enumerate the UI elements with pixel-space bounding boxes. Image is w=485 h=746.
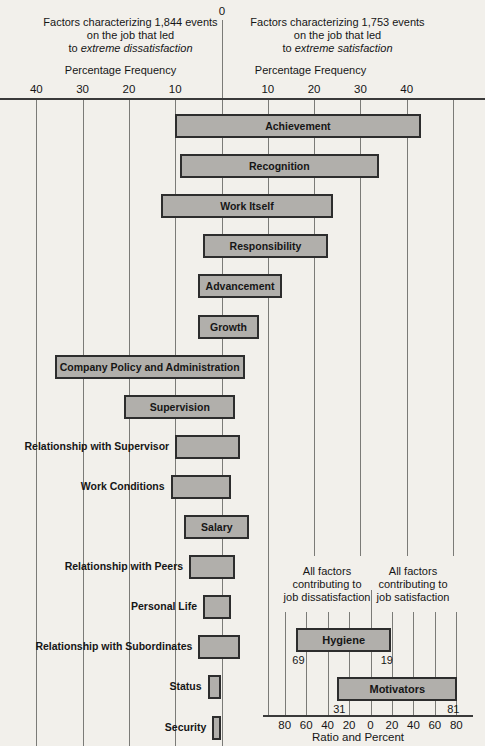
satisfaction-title-line3: to extreme satisfaction bbox=[235, 42, 440, 55]
inset-tick-label-60: 60 bbox=[428, 719, 441, 731]
bar-motivators: Motivators bbox=[337, 677, 457, 701]
inset-tick-label--60: 60 bbox=[300, 719, 313, 731]
gridline-50 bbox=[453, 98, 454, 556]
percentage-frequency-label-right: Percentage Frequency bbox=[228, 64, 393, 77]
axis-tick-label-30: 30 bbox=[354, 83, 367, 95]
inset-tick-label--40: 40 bbox=[321, 719, 334, 731]
satisfaction-title-line1: Factors characterizing 1,753 events bbox=[235, 16, 440, 29]
dissatisfaction-title-line1: Factors characterizing 1,844 events bbox=[28, 16, 233, 29]
inset-tick-label-0: 0 bbox=[367, 719, 373, 731]
inset-tick-label--80: 80 bbox=[278, 719, 291, 731]
satisfaction-title-line2: on the job that led bbox=[235, 29, 440, 42]
row-label-status: Status bbox=[170, 680, 202, 692]
inset-tick-label-80: 80 bbox=[450, 719, 463, 731]
main-axis-line bbox=[0, 98, 485, 100]
bar-growth: Growth bbox=[198, 315, 258, 339]
bar-relationship-with-subordinates bbox=[198, 635, 240, 659]
dissatisfaction-title-line2: on the job that led bbox=[28, 29, 233, 42]
bar-company-policy-and-administration: Company Policy and Administration bbox=[55, 355, 245, 379]
dissatisfaction-title-line3: to extreme dissatisfaction bbox=[28, 42, 233, 55]
bar-advancement: Advancement bbox=[198, 274, 281, 298]
bar-responsibility: Responsibility bbox=[203, 234, 328, 258]
gridline-40 bbox=[407, 98, 408, 556]
gridline-10 bbox=[268, 98, 269, 716]
inset-gridline--80 bbox=[285, 612, 286, 716]
herzberg-two-factor-chart: 0 Factors characterizing 1,844 events on… bbox=[0, 0, 485, 746]
axis-tick-label--40: 40 bbox=[30, 83, 43, 95]
bar-work-itself: Work Itself bbox=[161, 194, 332, 218]
bar-recognition: Recognition bbox=[180, 154, 379, 178]
bar-achievement: Achievement bbox=[175, 114, 420, 138]
bar-relationship-with-peers bbox=[189, 555, 235, 579]
axis-tick-label-20: 20 bbox=[308, 83, 321, 95]
axis-tick-label--10: 10 bbox=[169, 83, 182, 95]
percentage-frequency-label-left: Percentage Frequency bbox=[38, 64, 203, 77]
row-label-relationship-with-supervisor: Relationship with Supervisor bbox=[25, 440, 170, 452]
bar-salary: Salary bbox=[184, 515, 249, 539]
inset-satisfaction-header-line1: All factors bbox=[352, 565, 474, 578]
bar-relationship-with-supervisor bbox=[175, 435, 240, 459]
row-label-work-conditions: Work Conditions bbox=[81, 480, 165, 492]
inset-tick-label-20: 20 bbox=[386, 719, 399, 731]
inset-tick-label-40: 40 bbox=[407, 719, 420, 731]
value-label-motivators-left: 31 bbox=[333, 703, 345, 715]
row-label-security: Security bbox=[165, 721, 206, 733]
satisfaction-title: Factors characterizing 1,753 events on t… bbox=[235, 16, 440, 55]
row-label-relationship-with-subordinates: Relationship with Subordinates bbox=[35, 640, 192, 652]
dissatisfaction-title: Factors characterizing 1,844 events on t… bbox=[28, 16, 233, 55]
row-label-personal-life: Personal Life bbox=[131, 600, 197, 612]
inset-tick-label--20: 20 bbox=[343, 719, 356, 731]
value-label-hygiene-right: 19 bbox=[381, 654, 393, 666]
axis-tick-label-40: 40 bbox=[400, 83, 413, 95]
bar-personal-life bbox=[203, 595, 231, 619]
row-label-relationship-with-peers: Relationship with Peers bbox=[65, 560, 183, 572]
bar-hygiene: Hygiene bbox=[296, 628, 390, 652]
bar-supervision: Supervision bbox=[124, 395, 235, 419]
axis-tick-label-10: 10 bbox=[261, 83, 274, 95]
inset-axis-line bbox=[263, 715, 473, 717]
value-label-hygiene-left: 69 bbox=[292, 654, 304, 666]
bar-work-conditions bbox=[171, 475, 231, 499]
bar-security bbox=[212, 716, 221, 740]
axis-tick-label--20: 20 bbox=[122, 83, 135, 95]
ratio-and-percent-label: Ratio and Percent bbox=[312, 731, 404, 743]
bar-status bbox=[208, 675, 222, 699]
value-label-motivators-right: 81 bbox=[447, 703, 459, 715]
axis-tick-label--30: 30 bbox=[76, 83, 89, 95]
